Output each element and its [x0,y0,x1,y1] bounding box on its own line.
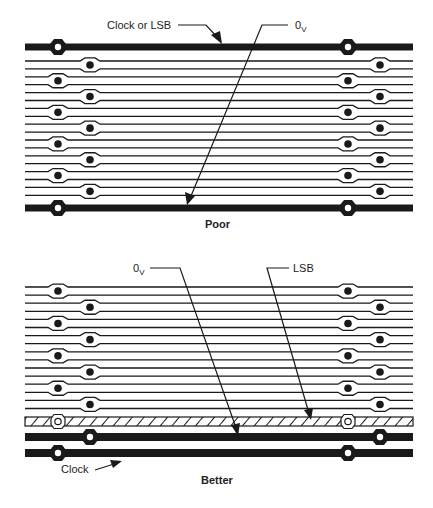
better-diagram [25,284,413,461]
pcb-layout-diagram: Clock or LSB 0V Poor 0V LSB Clock Better [0,0,433,508]
zero-v-label-top: 0V [295,19,307,34]
zero-v-leader-arrow-top [185,25,288,205]
better-caption: Better [201,474,234,486]
clock-label: Clock [61,463,89,475]
zero-v-label-bottom: 0V [133,262,145,277]
poor-caption: Poor [205,218,231,230]
clock-leader-arrow [95,460,122,470]
clock-or-lsb-label: Clock or LSB [107,19,171,31]
svg-text:0V: 0V [133,262,145,277]
lsb-label: LSB [293,262,314,274]
clock-or-lsb-leader-arrow [178,25,222,44]
svg-text:0V: 0V [295,19,307,34]
